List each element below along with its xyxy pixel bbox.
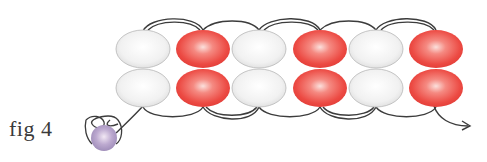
thread-exit [434,106,468,126]
bead-white [116,69,170,107]
bead-white [232,69,286,107]
bead-red [409,69,463,107]
bead-red [409,30,463,68]
bead-white [116,30,170,68]
thread-top [143,19,436,31]
bead-red [176,30,230,68]
bead-white [349,30,403,68]
bead-white [232,30,286,68]
bead-grid [116,30,463,107]
thread-tail [116,106,143,133]
bead-red [176,69,230,107]
beadwork-diagram [0,0,487,162]
stop-bead [91,125,117,151]
thread-bottom [107,107,436,126]
bead-red [293,30,347,68]
bead-red [293,69,347,107]
bead-white [349,69,403,107]
